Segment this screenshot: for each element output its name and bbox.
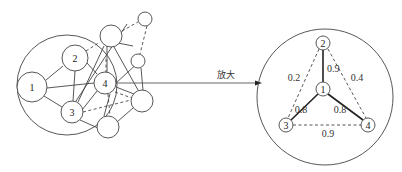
- left-node-e: [97, 116, 119, 138]
- left-node-1-label: 1: [30, 82, 35, 93]
- left-node-d: [131, 90, 153, 112]
- weight-1-4: 0.8: [334, 104, 347, 115]
- weight-2-3: 0.2: [288, 72, 301, 83]
- right-node-2-label: 2: [321, 38, 326, 49]
- right-node-3-label: 3: [284, 120, 289, 131]
- left-node-4-label: 4: [103, 78, 108, 89]
- left-node-3-label: 3: [70, 107, 75, 118]
- arrow-label: 放大: [217, 69, 235, 80]
- left-node-a: [100, 25, 122, 47]
- left-node-2-label: 2: [73, 53, 78, 64]
- zoom-arrow: 放大: [116, 69, 262, 86]
- left-graph: [17, 12, 153, 138]
- weight-3-4: 0.9: [322, 128, 335, 139]
- right-node-4-label: 4: [366, 120, 371, 131]
- diagram-canvas: 1 2 3 4 放大 2 1: [0, 0, 402, 172]
- weight-2-4: 0.4: [351, 72, 364, 83]
- right-node-1-label: 1: [321, 84, 326, 95]
- weight-1-3: 0.8: [295, 104, 308, 115]
- left-node-c: [131, 54, 145, 68]
- right-graph: [257, 29, 393, 165]
- weight-1-2: 0.9: [327, 63, 340, 74]
- left-node-b: [138, 12, 152, 26]
